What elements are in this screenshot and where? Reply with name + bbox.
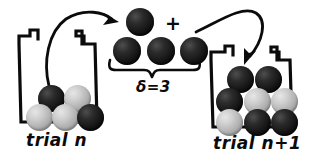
ball-left-5 bbox=[77, 104, 104, 131]
ball-right-6 bbox=[216, 109, 243, 136]
figure-canvas: + δ=3 trial n trial n+1 bbox=[0, 0, 317, 162]
ball-right-8 bbox=[271, 109, 298, 136]
ball-left-4 bbox=[52, 104, 79, 131]
ball-left-3 bbox=[26, 104, 53, 131]
ball-center-single bbox=[126, 8, 154, 36]
ball-center-row-3 bbox=[180, 37, 208, 65]
delta-label: δ=3 bbox=[136, 78, 171, 96]
ball-right-7 bbox=[244, 109, 271, 136]
ball-center-row-1 bbox=[113, 37, 141, 65]
right-urn-label: trial n+1 bbox=[213, 133, 301, 153]
plus-symbol: + bbox=[165, 12, 181, 34]
arrow-draw-out bbox=[47, 12, 119, 86]
left-urn-label: trial n bbox=[26, 130, 87, 150]
ball-center-row-2 bbox=[147, 37, 175, 65]
